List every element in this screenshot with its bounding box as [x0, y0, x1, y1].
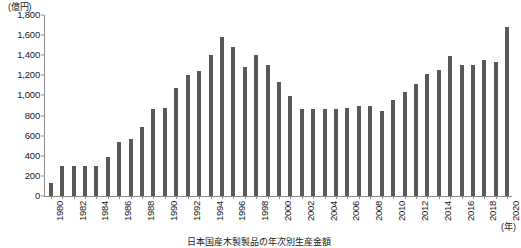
x-axis-tick-mark: [62, 196, 63, 199]
y-axis-tick-mark: [41, 95, 44, 96]
bar: [231, 47, 235, 196]
y-axis-tick-label: 1,200: [17, 70, 40, 80]
x-axis-tick-label: 1986: [123, 201, 133, 221]
x-axis-tick-mark: [439, 196, 440, 199]
x-axis-tick-label: 1994: [215, 201, 225, 221]
x-axis-tick-mark: [290, 196, 291, 199]
bar: [460, 65, 464, 196]
bar: [368, 106, 372, 197]
y-axis-tick-label: 200: [25, 171, 40, 181]
bar: [163, 108, 167, 196]
x-axis-tick-mark: [119, 196, 120, 199]
bar: [334, 109, 338, 196]
x-axis-tick-mark: [142, 196, 143, 199]
y-axis-tick-label: 400: [25, 151, 40, 161]
bar: [414, 84, 418, 196]
x-axis-unit-label: (年): [501, 222, 516, 232]
bar: [403, 92, 407, 196]
bar: [140, 127, 144, 196]
bar: [425, 74, 429, 196]
x-axis-tick-label: 2004: [329, 201, 339, 221]
x-axis-tick-mark: [108, 196, 109, 199]
bar: [106, 157, 110, 196]
bar: [186, 75, 190, 196]
x-axis-tick-label: 2000: [283, 201, 293, 221]
bar: [482, 60, 486, 196]
x-axis-tick-mark: [473, 196, 474, 199]
bar: [391, 100, 395, 196]
bar: [357, 106, 361, 197]
x-axis-tick-mark: [313, 196, 314, 199]
x-axis-tick-label: 2010: [397, 201, 407, 221]
x-axis-tick-mark: [96, 196, 97, 199]
y-axis-tick-label: 800: [25, 111, 40, 121]
y-axis-tick-mark: [41, 175, 44, 176]
bar: [288, 96, 292, 196]
x-axis-tick-mark: [302, 196, 303, 199]
x-axis-tick-label: 2006: [351, 201, 361, 221]
x-axis-tick-label: 2012: [420, 201, 430, 221]
y-axis-tick-label: 0: [35, 191, 40, 201]
x-axis-tick-label: 1992: [192, 201, 202, 221]
y-axis-tick-label: 1,600: [17, 30, 40, 40]
bar: [254, 55, 258, 196]
y-axis-tick-label: 1,400: [17, 50, 40, 60]
plot-area: 02004006008001,0001,2001,4001,6001,800: [44, 15, 512, 196]
bar: [129, 139, 133, 196]
x-axis-tick-label: 2008: [374, 201, 384, 221]
x-axis-tick-mark: [211, 196, 212, 199]
x-axis-tick-mark: [199, 196, 200, 199]
x-axis-tick-mark: [336, 196, 337, 199]
bar: [345, 108, 349, 196]
x-axis-tick-label: 1988: [146, 201, 156, 221]
x-axis-tick-mark: [188, 196, 189, 199]
x-axis-tick-mark: [416, 196, 417, 199]
x-axis-tick-mark: [382, 196, 383, 199]
x-axis-tick-label: 2018: [488, 201, 498, 221]
x-axis-tick-label: 2002: [306, 201, 316, 221]
x-axis-tick-mark: [268, 196, 269, 199]
x-axis-tick-mark: [51, 196, 52, 199]
y-axis-tick-mark: [41, 75, 44, 76]
y-axis-tick-label: 1,800: [17, 10, 40, 20]
bar: [323, 109, 327, 196]
x-axis-tick-label: 1982: [78, 201, 88, 221]
bar: [60, 166, 64, 196]
x-axis-tick-label: 2020: [511, 201, 521, 221]
x-axis-tick-mark: [222, 196, 223, 199]
y-axis-tick-mark: [41, 115, 44, 116]
x-axis-tick-mark: [256, 196, 257, 199]
bar: [49, 183, 53, 196]
bar: [505, 27, 509, 196]
bar: [209, 55, 213, 196]
x-axis-tick-mark: [405, 196, 406, 199]
bar: [380, 111, 384, 196]
bar: [494, 62, 498, 196]
y-axis-tick-label: 600: [25, 131, 40, 141]
bar: [471, 65, 475, 196]
bar: [72, 166, 76, 196]
x-axis-tick-mark: [85, 196, 86, 199]
y-axis-tick-mark: [41, 155, 44, 156]
x-axis-tick-mark: [450, 196, 451, 199]
x-axis-tick-mark: [325, 196, 326, 199]
bar: [83, 166, 87, 196]
x-axis-tick-mark: [462, 196, 463, 199]
x-axis-tick-mark: [131, 196, 132, 199]
x-axis-tick-label: 1984: [100, 201, 110, 221]
y-axis-tick-mark: [41, 35, 44, 36]
x-axis-tick-mark: [427, 196, 428, 199]
bar: [151, 109, 155, 196]
x-axis-tick-mark: [245, 196, 246, 199]
x-axis-tick-mark: [393, 196, 394, 199]
y-axis-tick-mark: [41, 55, 44, 56]
x-axis-tick-mark: [153, 196, 154, 199]
x-axis-tick-mark: [176, 196, 177, 199]
x-axis-tick-mark: [507, 196, 508, 199]
x-axis-tick-mark: [347, 196, 348, 199]
x-axis-tick-mark: [74, 196, 75, 199]
x-axis-line: [44, 196, 512, 197]
y-axis-tick-label: 1,000: [17, 90, 40, 100]
y-axis-tick-mark: [41, 135, 44, 136]
